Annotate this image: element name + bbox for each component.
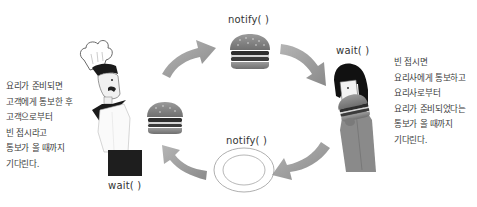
empty-plate-icon (214, 148, 274, 192)
customer-illustration (334, 64, 376, 172)
arrow-bottom-left-icon (162, 145, 207, 180)
arrow-top-left-icon (162, 40, 216, 78)
chef-illustration (80, 41, 142, 176)
burger-chef-icon (147, 102, 183, 134)
customer-wait-label: wait( ) (336, 45, 369, 56)
chef-wait-label: wait( ) (108, 180, 141, 191)
bottom-notify-label: notify( ) (226, 135, 267, 146)
top-notify-label: notify( ) (228, 14, 269, 25)
cycle-illustration (0, 0, 477, 207)
arrow-top-right-icon (280, 44, 326, 86)
burger-top-icon (230, 34, 270, 69)
arrow-bottom-right-icon (272, 142, 330, 180)
